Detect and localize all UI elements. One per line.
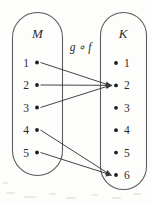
set-k-element-label-3: 3 — [124, 102, 130, 114]
set-m-node-2 — [35, 83, 39, 87]
scan-noise-artifacts — [3, 182, 141, 199]
mapping-arrow-4-to-6 — [41, 130, 113, 176]
set-m-element-label-4: 4 — [23, 124, 29, 136]
set-k-node-3 — [114, 106, 118, 110]
set-m-node-4 — [35, 128, 39, 132]
set-m-title: M — [31, 26, 44, 41]
set-m-elements: 1 2 3 4 5 — [23, 57, 39, 159]
diagram-canvas: M K g ∘ f 1 2 3 4 5 1 2 3 4 — [0, 0, 151, 203]
set-k-node-4 — [114, 128, 118, 132]
set-k-node-1 — [114, 61, 118, 65]
set-k-element-label-4: 4 — [124, 124, 130, 136]
set-m-element-label-2: 2 — [23, 79, 29, 91]
set-k-node-5 — [114, 151, 118, 155]
set-m-element-label-3: 3 — [23, 102, 29, 114]
mapping-arrow-2-to-2 — [41, 83, 113, 88]
set-m-node-3 — [35, 106, 39, 110]
set-k-element-label-2: 2 — [124, 79, 130, 91]
set-k-node-2 — [114, 84, 118, 88]
set-m-node-1 — [35, 61, 39, 65]
set-k-title: K — [118, 26, 129, 41]
mapping-arrow-3-to-2 — [41, 85, 113, 108]
set-k-elements: 1 2 3 4 5 6 — [114, 57, 130, 181]
set-k-node-6 — [114, 173, 118, 177]
mapping-arrow-1-to-2 — [41, 63, 113, 87]
set-m-element-label-5: 5 — [23, 147, 29, 159]
set-m-element-label-1: 1 — [23, 57, 29, 69]
set-k-element-label-6: 6 — [124, 169, 130, 181]
mapping-diagram: M K g ∘ f 1 2 3 4 5 1 2 3 4 — [0, 0, 151, 203]
composition-label: g ∘ f — [70, 41, 94, 54]
set-k-element-label-5: 5 — [124, 147, 130, 159]
set-k-element-label-1: 1 — [124, 57, 130, 69]
set-m-node-5 — [35, 151, 39, 155]
